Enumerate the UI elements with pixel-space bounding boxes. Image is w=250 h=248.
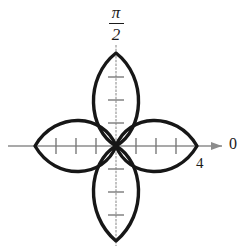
vertical-axis-label: π 2 <box>98 4 134 43</box>
horizontal-axis-arrowhead <box>211 142 222 150</box>
fraction-bar <box>109 23 124 24</box>
vertical-axis-label-denominator: 2 <box>98 26 134 43</box>
polar-axis-label: 0 <box>229 136 237 152</box>
polar-rose-figure: π 2 0 4 <box>0 0 250 248</box>
radius-tick-label: 4 <box>196 156 204 171</box>
vertical-axis-label-numerator: π <box>98 4 134 22</box>
